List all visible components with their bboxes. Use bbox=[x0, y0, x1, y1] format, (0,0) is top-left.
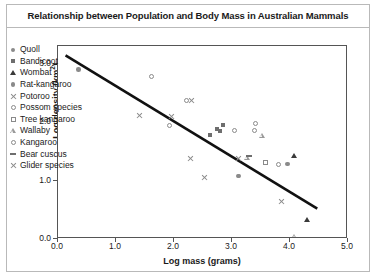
data-point bbox=[236, 174, 241, 179]
marker-filled-triangle bbox=[10, 70, 16, 75]
data-point bbox=[276, 162, 281, 167]
data-point bbox=[278, 198, 285, 205]
data-point bbox=[167, 123, 172, 128]
marker-dash bbox=[10, 153, 16, 155]
marker-open-square bbox=[11, 117, 16, 122]
marker-cross bbox=[10, 162, 17, 169]
data-point bbox=[235, 155, 242, 162]
legend-marker-filled-square-icon bbox=[6, 56, 20, 67]
legend-label: Bear cuscus bbox=[20, 149, 67, 160]
data-point bbox=[304, 217, 310, 222]
legend-marker-open-circle-icon bbox=[6, 102, 20, 113]
x-tick-label: 1.0 bbox=[100, 241, 130, 251]
legend-marker-open-circle-icon bbox=[6, 137, 20, 148]
y-tick-label: 1.0 bbox=[29, 175, 51, 185]
data-point bbox=[187, 155, 194, 162]
legend-label: Glider species bbox=[20, 160, 74, 171]
legend-label: Potoroo bbox=[20, 91, 50, 102]
chart-figure: Relationship between Population and Body… bbox=[0, 0, 376, 277]
data-point bbox=[208, 133, 212, 137]
marker-filled-circle bbox=[11, 48, 16, 53]
legend-item[interactable]: Bandicoot bbox=[6, 56, 124, 68]
legend-marker-open-triangle-icon bbox=[6, 125, 20, 136]
legend-label: Rat-kangaroo bbox=[20, 79, 72, 90]
legend-item[interactable]: Bear cuscus bbox=[6, 148, 124, 160]
x-axis-label: Log mass (grams) bbox=[57, 256, 347, 266]
marker-open-triangle bbox=[10, 128, 16, 133]
legend-marker-cross-icon bbox=[6, 160, 20, 171]
x-tick-mark bbox=[347, 238, 348, 242]
x-tick-label: 3.0 bbox=[216, 241, 246, 251]
x-tick-label: 4.0 bbox=[274, 241, 304, 251]
data-point bbox=[136, 112, 143, 119]
legend-item[interactable]: Rat-kangaroo bbox=[6, 79, 124, 91]
legend-item[interactable]: Wombat bbox=[6, 67, 124, 79]
data-point bbox=[218, 129, 222, 133]
data-point bbox=[246, 155, 252, 157]
legend-label: Wallaby bbox=[20, 125, 50, 136]
marker-open-circle bbox=[11, 105, 16, 110]
data-point bbox=[149, 74, 154, 79]
legend-item[interactable]: Tree kangaroo bbox=[6, 114, 124, 126]
data-point bbox=[252, 128, 257, 133]
legend-label: Possom species bbox=[20, 102, 82, 113]
legend-label: Quoll bbox=[20, 44, 40, 55]
data-point bbox=[201, 174, 208, 181]
marker-filled-square bbox=[11, 59, 15, 63]
legend-label: Bandicoot bbox=[20, 56, 58, 67]
legend-label: Tree kangaroo bbox=[20, 114, 75, 125]
data-point bbox=[259, 133, 265, 138]
legend-item[interactable]: Glider species bbox=[6, 160, 124, 172]
marker-cross bbox=[10, 93, 17, 100]
x-tick-mark bbox=[57, 238, 58, 242]
x-tick-mark bbox=[231, 238, 232, 242]
legend-item[interactable]: Potoroo bbox=[6, 90, 124, 102]
data-point bbox=[221, 123, 225, 127]
legend-marker-dash-icon bbox=[6, 149, 20, 160]
legend-marker-cross-icon bbox=[6, 91, 20, 102]
legend-item[interactable]: Quoll bbox=[6, 44, 124, 56]
data-point bbox=[253, 121, 258, 126]
legend: QuollBandicootWombatRat-kangarooPotorooP… bbox=[6, 44, 124, 172]
legend-marker-filled-circle-icon bbox=[6, 79, 20, 90]
legend-item[interactable]: Wallaby bbox=[6, 125, 124, 137]
x-tick-label: 0.0 bbox=[42, 241, 72, 251]
data-point bbox=[291, 234, 297, 238]
x-tick-label: 2.0 bbox=[158, 241, 188, 251]
data-point bbox=[168, 113, 175, 120]
legend-item[interactable]: Possom species bbox=[6, 102, 124, 114]
data-point bbox=[263, 160, 268, 165]
legend-label: Kangaroo bbox=[20, 137, 57, 148]
data-point bbox=[285, 162, 290, 167]
page-title: Relationship between Population and Body… bbox=[28, 10, 349, 21]
x-tick-mark bbox=[115, 238, 116, 242]
data-point bbox=[291, 153, 297, 158]
legend-marker-filled-triangle-icon bbox=[6, 67, 20, 78]
x-tick-label: 5.0 bbox=[332, 241, 362, 251]
x-tick-mark bbox=[289, 238, 290, 242]
data-point bbox=[232, 128, 237, 133]
chart-title-band: Relationship between Population and Body… bbox=[6, 4, 370, 28]
legend-marker-open-square-icon bbox=[6, 114, 20, 125]
legend-label: Wombat bbox=[20, 67, 52, 78]
marker-open-circle bbox=[11, 140, 16, 145]
legend-item[interactable]: Kangaroo bbox=[6, 137, 124, 149]
x-tick-mark bbox=[173, 238, 174, 242]
legend-marker-filled-circle-icon bbox=[6, 44, 20, 55]
marker-filled-circle bbox=[11, 82, 16, 87]
